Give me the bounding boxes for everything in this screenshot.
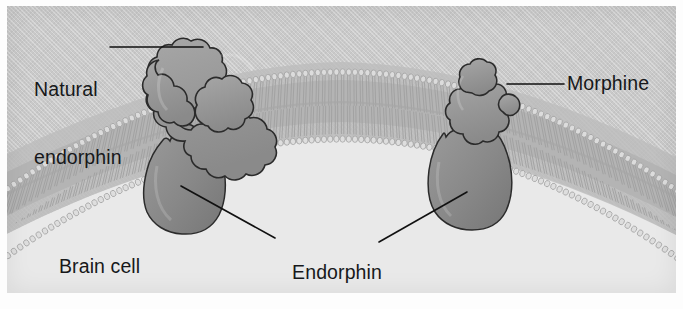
figure-canvas: Natural endorphin Morphine Endorphin rec… xyxy=(0,0,683,309)
label-natural-endorphin: Natural endorphin xyxy=(34,33,122,213)
label-natural-endorphin-line2: endorphin xyxy=(34,146,122,169)
label-morphine: Morphine xyxy=(567,72,649,95)
label-endorphin-receptors: Endorphin receptors xyxy=(277,216,397,293)
label-natural-endorphin-line1: Natural xyxy=(34,78,122,101)
label-endorphin-receptors-line1: Endorphin xyxy=(277,261,397,284)
label-brain-cell: Brain cell xyxy=(59,255,140,278)
illustration-panel: Natural endorphin Morphine Endorphin rec… xyxy=(7,6,676,293)
